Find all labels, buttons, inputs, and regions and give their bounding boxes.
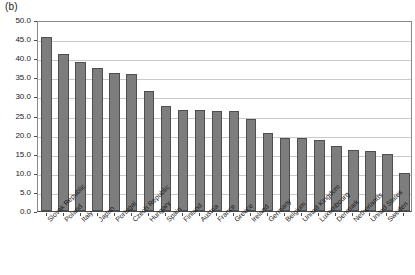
y-tick-label: 20.0 <box>15 132 31 140</box>
bar <box>178 110 189 211</box>
gridline <box>38 41 411 42</box>
bar <box>144 91 155 211</box>
x-tick-mark <box>46 213 47 216</box>
bar <box>246 119 257 211</box>
y-tick-label: 15.0 <box>15 151 31 159</box>
y-tick-label: 50.0 <box>15 17 31 25</box>
y-tick-label: 40.0 <box>15 55 31 63</box>
y-tick-label: 30.0 <box>15 93 31 101</box>
bar <box>263 133 274 211</box>
plot-area <box>37 21 412 212</box>
y-tick-label: 5.0 <box>20 189 31 197</box>
bar <box>229 111 240 211</box>
x-tick-mark <box>80 213 81 216</box>
y-axis-tick-labels: 50.045.040.035.030.025.020.015.010.05.00… <box>0 0 34 275</box>
bar <box>212 111 223 211</box>
x-tick-mark <box>403 213 404 216</box>
y-tick-label: 45.0 <box>15 36 31 44</box>
y-tick-label: 25.0 <box>15 113 31 121</box>
bar <box>58 54 69 211</box>
bar <box>92 68 103 211</box>
gridline <box>38 60 411 61</box>
bar <box>109 73 120 211</box>
bar <box>195 110 206 211</box>
y-tick-label: 0.0 <box>20 208 31 216</box>
bar <box>41 37 52 211</box>
y-tick-label: 35.0 <box>15 74 31 82</box>
y-tick-label: 10.0 <box>15 170 31 178</box>
figure-panel-b: (b) 50.045.040.035.030.025.020.015.010.0… <box>0 0 415 275</box>
x-tick-mark <box>63 213 64 216</box>
bar <box>126 74 137 211</box>
x-axis-tick-labels: Slovak RepublicPolandItalyJapanPortugalC… <box>37 213 412 275</box>
